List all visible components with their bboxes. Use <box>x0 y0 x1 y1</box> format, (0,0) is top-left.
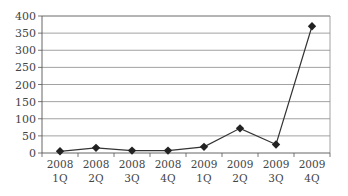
diamond-marker-icon <box>92 144 100 152</box>
y-tick-label: 350 <box>15 27 36 40</box>
x-tick-label-quarter: 1Q <box>196 172 212 184</box>
x-tick-label-quarter: 2Q <box>232 172 248 184</box>
x-tick-label-year: 2009 <box>227 158 254 170</box>
y-tick-label: 150 <box>15 96 36 109</box>
x-tick-label-quarter: 1Q <box>52 172 68 184</box>
y-axis: 050100150200250300350400 <box>15 10 42 160</box>
diamond-marker-icon <box>200 143 208 151</box>
diamond-marker-icon <box>164 146 172 154</box>
y-tick-label: 250 <box>15 61 36 74</box>
x-tick-label-quarter: 3Q <box>268 172 284 184</box>
diamond-marker-icon <box>272 140 280 148</box>
diamond-marker-icon <box>236 124 244 132</box>
x-tick-label-quarter: 3Q <box>124 172 140 184</box>
x-tick-label-year: 2008 <box>47 158 74 170</box>
x-tick-label-year: 2009 <box>263 158 290 170</box>
x-tick-label-year: 2008 <box>83 158 110 170</box>
x-tick-label-year: 2009 <box>191 158 218 170</box>
gridlines <box>42 16 330 153</box>
diamond-marker-icon <box>308 22 316 30</box>
x-tick-label-quarter: 4Q <box>304 172 320 184</box>
x-tick-label-year: 2008 <box>155 158 182 170</box>
diamond-marker-icon <box>56 147 64 155</box>
y-tick-label: 100 <box>15 113 36 126</box>
y-tick-label: 50 <box>22 130 36 143</box>
x-tick-label-year: 2008 <box>119 158 146 170</box>
x-axis: 20081Q20082Q20083Q20084Q20091Q20092Q2009… <box>42 153 330 184</box>
x-tick-label-quarter: 2Q <box>88 172 104 184</box>
y-tick-label: 300 <box>15 44 36 57</box>
y-tick-label: 400 <box>15 10 36 23</box>
y-tick-label: 0 <box>29 147 36 160</box>
diamond-marker-icon <box>128 146 136 154</box>
x-tick-label-quarter: 4Q <box>160 172 176 184</box>
series-line <box>60 26 312 151</box>
line-chart: 050100150200250300350400 20081Q20082Q200… <box>0 0 348 196</box>
x-tick-label-year: 2009 <box>299 158 326 170</box>
y-tick-label: 200 <box>15 79 36 92</box>
